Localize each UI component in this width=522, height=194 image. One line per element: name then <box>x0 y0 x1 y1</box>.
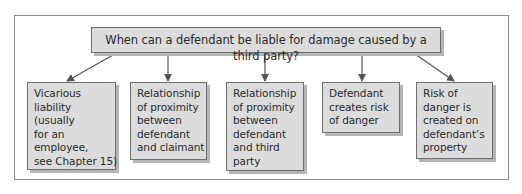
node-text-line: and claimant <box>137 141 201 155</box>
node-text-line: danger is <box>423 101 487 115</box>
node-text-line: for an <box>34 128 110 142</box>
node-text-line: between <box>233 114 298 128</box>
node-proximity-defendant-claimant: Relationship of proximity between defend… <box>130 82 207 160</box>
node-text-line: employee, <box>34 141 110 155</box>
node-text-line: defendant <box>137 128 201 142</box>
node-proximity-defendant-third-party: Relationship of proximity between defend… <box>226 82 304 171</box>
question-title-box: When can a defendant be liable for damag… <box>91 27 441 53</box>
node-text-line: of proximity <box>233 101 298 115</box>
arrow-to-vicarious-liability <box>67 55 113 81</box>
node-text-line: Defendant <box>329 87 394 101</box>
node-text-line: created on <box>423 114 487 128</box>
node-text-line: see Chapter 15) <box>34 155 110 169</box>
node-text-line: Relationship <box>233 87 298 101</box>
node-text-line: liability <box>34 101 110 115</box>
node-text-line: between <box>137 114 201 128</box>
node-text-line: (usually <box>34 114 110 128</box>
node-text-line: defendant <box>233 128 298 142</box>
arrow-to-risk-on-property <box>415 54 454 81</box>
node-text-line: and third <box>233 141 298 155</box>
node-defendant-creates-risk: Defendant creates risk of danger <box>322 82 400 133</box>
node-text-line: Relationship <box>137 87 201 101</box>
node-text-line: of proximity <box>137 101 201 115</box>
node-text-line: Vicarious <box>34 87 110 101</box>
node-text-line: Risk of <box>423 87 487 101</box>
node-text-line: property <box>423 141 487 155</box>
node-text-line: party <box>233 155 298 169</box>
node-text-line: defendant’s <box>423 128 487 142</box>
node-text-line: creates risk <box>329 101 394 115</box>
node-vicarious-liability: Vicarious liability (usually for an empl… <box>27 82 116 170</box>
node-text-line: of danger <box>329 114 394 128</box>
node-risk-on-defendant-property: Risk of danger is created on defendant’s… <box>416 82 493 159</box>
